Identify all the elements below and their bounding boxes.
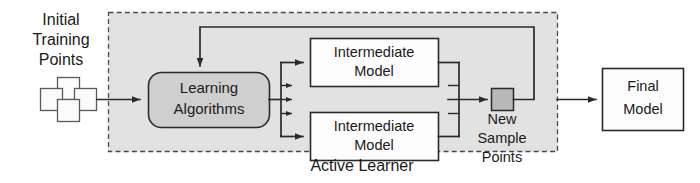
new-sample-points-label-line2: Sample [477,130,526,146]
final-model-label-line1: Final [627,78,658,94]
final-model-node: Final Model [603,69,684,131]
final-model-label-line2: Model [623,101,663,117]
four-squares-cluster-icon [41,78,97,122]
new-sample-points-label-line1: New [487,111,517,127]
grey-square-icon [492,89,514,111]
initial-training-points-label-line3: Points [39,51,83,68]
initial-training-points-label-line2: Training [32,31,89,48]
diagram-canvas: Initial Training Points Learning Algorit… [0,0,700,183]
learning-algorithms-label-line2: Algorithms [174,100,245,117]
intermediate-model-bottom-node: Intermediate Model [311,113,439,161]
intermediate-model-top-label-line2: Model [354,63,394,79]
learning-algorithms-label-line1: Learning [180,79,238,96]
initial-training-points-label-line1: Initial [42,11,79,28]
intermediate-model-top-label-line1: Intermediate [334,44,415,60]
intermediate-model-top-node: Intermediate Model [311,39,439,87]
learning-algorithms-node: Learning Algorithms [149,73,270,128]
intermediate-model-bottom-label-line2: Model [354,137,394,153]
new-sample-points-label-line3: Points [482,149,522,165]
active-learner-caption: Active Learner [310,157,414,174]
intermediate-model-bottom-label-line1: Intermediate [334,118,415,134]
initial-training-points-node: Initial Training Points [32,11,96,121]
